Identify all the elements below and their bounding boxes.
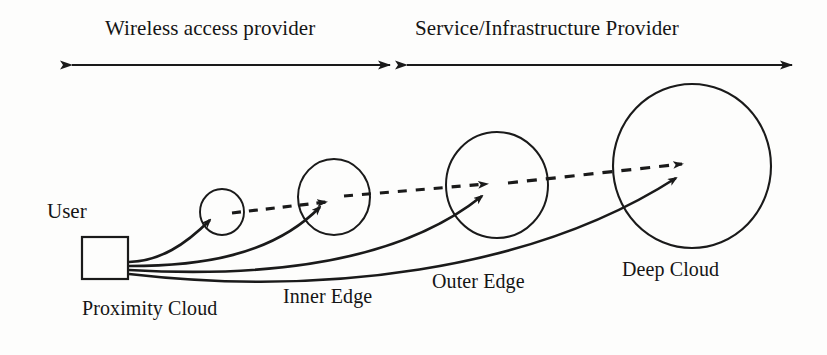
span-label-wireless-access-provider: Wireless access provider	[105, 16, 315, 41]
user-label: User	[47, 199, 87, 224]
node-label-inner-edge: Inner Edge	[283, 285, 372, 308]
node-label-outer-edge: Outer Edge	[432, 270, 525, 293]
solid-arrow-user-to-deep-cloud	[129, 178, 676, 282]
dashed-arrow-outer-to-deep	[508, 164, 682, 183]
node-label-deep-cloud: Deep Cloud	[622, 258, 719, 281]
node-circle-inner-edge	[298, 159, 370, 235]
node-label-proximity-cloud: Proximity Cloud	[82, 297, 217, 320]
user-device-box	[82, 237, 128, 279]
dashed-arrow-proximity-to-inner	[232, 202, 326, 213]
node-circle-deep-cloud	[613, 84, 771, 248]
dashed-arrow-inner-to-outer	[344, 184, 487, 196]
solid-arrow-user-to-outer-edge	[129, 196, 482, 272]
node-circle-outer-edge	[446, 132, 548, 238]
edge-computing-hierarchy-figure: Wireless access provider Service/Infrast…	[0, 0, 827, 355]
span-label-service-infrastructure-provider: Service/Infrastructure Provider	[415, 16, 679, 41]
solid-arrow-user-to-proximity-cloud	[129, 220, 210, 262]
